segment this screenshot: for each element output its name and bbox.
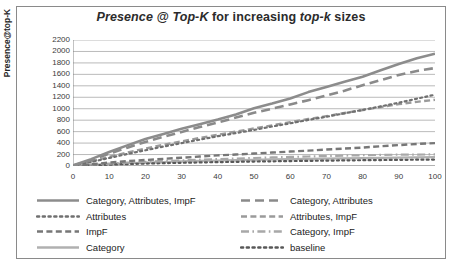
legend-item-label: ImpF xyxy=(86,226,108,237)
y-axis-tick-labels: 0200400600800100012001400160018002000220… xyxy=(26,40,70,166)
legend-item[interactable]: baseline xyxy=(240,240,440,256)
legend-line-swatch-icon xyxy=(36,211,80,222)
legend-item-label: Category, Attributes xyxy=(290,195,373,206)
legend-line-swatch-icon xyxy=(240,226,284,237)
plot-area xyxy=(73,40,435,166)
legend-item[interactable]: Category, Attributes, ImpF xyxy=(36,193,236,209)
x-tick-label: 40 xyxy=(204,172,232,181)
legend-item[interactable]: ImpF xyxy=(36,224,236,240)
x-tick-label: 80 xyxy=(349,172,377,181)
chart-container: Presence @ Top-K for increasing top-k si… xyxy=(0,0,462,269)
y-tick-label: 200 xyxy=(30,151,70,159)
y-tick-label: 800 xyxy=(30,116,70,124)
legend-column-right: Category, AttributesAttributes, ImpFCate… xyxy=(240,193,440,255)
x-tick-label: 90 xyxy=(385,172,413,181)
legend-item-label: baseline xyxy=(290,242,325,253)
chart-legend: Category, Attributes, ImpFAttributesImpF… xyxy=(32,193,432,255)
legend-line-swatch-icon xyxy=(240,211,284,222)
y-tick-label: 1000 xyxy=(30,105,70,113)
chart-title-part: sizes xyxy=(331,10,366,24)
series-line-category-attributes xyxy=(73,68,435,165)
y-tick-label: 1800 xyxy=(30,59,70,67)
legend-item[interactable]: Attributes xyxy=(36,209,236,225)
chart-title: Presence @ Top-K for increasing top-k si… xyxy=(16,10,446,24)
chart-title-part: for increasing xyxy=(209,10,300,24)
legend-item-label: Category xyxy=(86,242,125,253)
legend-line-swatch-icon xyxy=(36,242,80,253)
x-tick-label: 100 xyxy=(421,172,449,181)
y-tick-label: 1200 xyxy=(30,93,70,101)
x-tick-label: 10 xyxy=(95,172,123,181)
chart-title-part: top-k xyxy=(300,10,331,24)
y-tick-label: 2000 xyxy=(30,47,70,55)
plot-svg xyxy=(73,40,435,166)
x-tick-label: 50 xyxy=(240,172,268,181)
legend-item-label: Category, ImpF xyxy=(290,226,355,237)
y-tick-label: 1400 xyxy=(30,82,70,90)
y-tick-label: 400 xyxy=(30,139,70,147)
legend-item[interactable]: Category, Attributes xyxy=(240,193,440,209)
legend-item[interactable]: Category xyxy=(36,240,236,256)
legend-column-left: Category, Attributes, ImpFAttributesImpF… xyxy=(36,193,236,255)
y-tick-label: 0 xyxy=(30,162,70,170)
legend-item[interactable]: Attributes, ImpF xyxy=(240,209,440,225)
legend-line-swatch-icon xyxy=(36,226,80,237)
legend-line-swatch-icon xyxy=(36,195,80,206)
y-tick-label: 1600 xyxy=(30,70,70,78)
legend-line-swatch-icon xyxy=(240,195,284,206)
x-tick-label: 0 xyxy=(59,172,87,181)
y-tick-label: 600 xyxy=(30,128,70,136)
legend-item-label: Category, Attributes, ImpF xyxy=(86,195,196,206)
legend-item-label: Attributes, ImpF xyxy=(290,211,357,222)
x-axis-tick-labels: 0102030405060708090100 xyxy=(73,172,435,184)
legend-line-swatch-icon xyxy=(240,242,284,253)
legend-item-label: Attributes xyxy=(86,211,126,222)
legend-item[interactable]: Category, ImpF xyxy=(240,224,440,240)
y-axis-title: Presence@top-K xyxy=(2,0,12,106)
x-tick-label: 60 xyxy=(276,172,304,181)
chart-title-part: Presence @ Top-K xyxy=(97,10,209,24)
y-tick-label: 2200 xyxy=(30,36,70,44)
x-tick-label: 20 xyxy=(131,172,159,181)
x-tick-label: 70 xyxy=(312,172,340,181)
x-tick-label: 30 xyxy=(168,172,196,181)
